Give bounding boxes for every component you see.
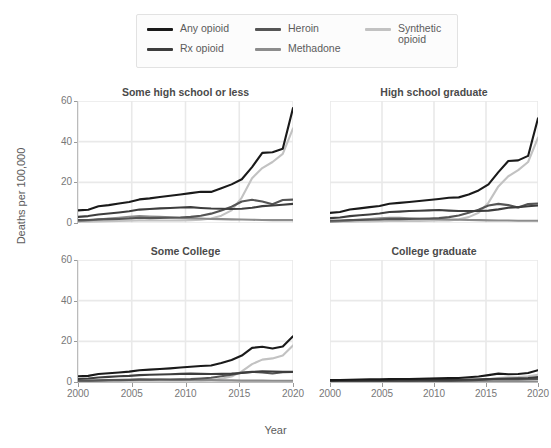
x-tick-mark [239, 383, 240, 387]
x-tick-label: 2020 [273, 388, 313, 399]
legend-swatch-icon [147, 28, 173, 31]
y-tick-label: 40 [61, 136, 72, 147]
legend-swatch-icon [147, 48, 173, 51]
legend-label: Synthetic opioid [398, 21, 449, 45]
y-tick-label: 0 [66, 217, 72, 228]
legend-label: Heroin [288, 21, 319, 34]
legend-item-any-opioid[interactable]: Any opioid [147, 21, 255, 41]
legend-swatch-icon [365, 28, 391, 31]
facet-title: Some College [78, 245, 293, 259]
x-tick-mark [132, 383, 133, 387]
x-tick-label: 2005 [112, 388, 152, 399]
plot-area [78, 260, 293, 382]
legend-swatch-icon [255, 48, 281, 51]
legend-label: Methadone [288, 41, 341, 54]
legend-swatch-icon [255, 28, 281, 31]
x-axis-spine [330, 382, 538, 383]
y-tick-label: 60 [61, 254, 72, 265]
y-axis-spine [77, 260, 78, 382]
facet-panel-high-school-graduate: High school graduate [330, 86, 538, 223]
facet-title: High school graduate [330, 86, 538, 100]
facet-panel-some-high-school-or-less: Some high school or less [78, 86, 293, 223]
x-tick-label: 2015 [466, 388, 506, 399]
x-tick-label: 2010 [166, 388, 206, 399]
x-tick-label: 2010 [414, 388, 454, 399]
plot-area [78, 101, 293, 223]
x-tick-mark [186, 383, 187, 387]
y-tick-label: 60 [61, 95, 72, 106]
facet-title: College graduate [330, 245, 538, 259]
facet-panel-college-graduate: College graduate [330, 245, 538, 382]
facet-title: Some high school or less [78, 86, 293, 100]
x-tick-mark [434, 383, 435, 387]
y-axis-title: Deaths per 100,000 [15, 126, 27, 266]
x-tick-label: 2000 [310, 388, 350, 399]
gridlines [78, 260, 293, 382]
y-tick-label: 40 [61, 295, 72, 306]
y-tick-label: 20 [61, 176, 72, 187]
x-tick-mark [486, 383, 487, 387]
x-axis-title: Year [0, 424, 551, 436]
legend-label: Any opioid [180, 21, 229, 34]
plot-area [330, 101, 538, 223]
x-tick-label: 2015 [219, 388, 259, 399]
y-tick-label: 20 [61, 335, 72, 346]
facet-panel-some-college: Some College [78, 245, 293, 382]
chart-legend: Any opioidRx opioidHeroinMethadoneSynthe… [136, 14, 458, 68]
plot-area [330, 260, 538, 382]
x-tick-mark [538, 383, 539, 387]
x-axis-spine [78, 382, 293, 383]
x-tick-label: 2000 [58, 388, 98, 399]
y-axis-spine [77, 101, 78, 223]
y-tick-mark [74, 223, 78, 224]
legend-label: Rx opioid [180, 41, 224, 54]
x-tick-mark [382, 383, 383, 387]
y-tick-label: 0 [66, 376, 72, 387]
legend-item-rx-opioid[interactable]: Rx opioid [147, 41, 255, 61]
x-tick-mark [78, 383, 79, 387]
x-tick-mark [330, 383, 331, 387]
x-tick-label: 2020 [518, 388, 551, 399]
chart-root: Any opioidRx opioidHeroinMethadoneSynthe… [0, 0, 551, 448]
legend-item-heroin[interactable]: Heroin [255, 21, 365, 41]
legend-item-methadone[interactable]: Methadone [255, 41, 365, 61]
legend-item-synthetic-opioid[interactable]: Synthetic opioid [365, 21, 449, 61]
x-tick-mark [293, 383, 294, 387]
gridlines [330, 260, 538, 382]
x-tick-label: 2005 [362, 388, 402, 399]
